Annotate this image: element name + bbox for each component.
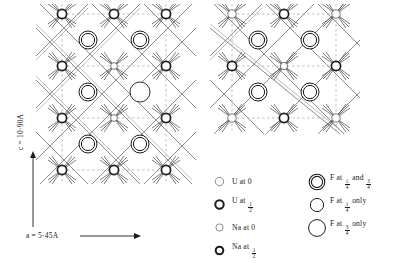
legend-label-f-both-prefix: F at [330,173,342,182]
legend-fraction-one-quarter: 1 4 [345,179,350,191]
legend-label-f-both-conjunction: and [352,173,364,182]
c-axis-label: c = 10·90A [16,114,25,150]
large-circle-icon [304,217,330,239]
medium-circle-icon [304,194,330,216]
legend-item-na-at-half: Na at 1 2 [206,239,257,262]
legend-fraction-one-half: 1 2 [248,202,253,214]
legend-fraction-one-half-na: 1 2 [252,248,257,260]
legend-fraction-one-quarter-only: 1 4 [345,202,350,214]
legend-label-u-half-prefix: U at [232,196,246,205]
double-circle-icon [304,171,330,193]
legend-item-u-at-half: U at 1 2 [206,193,257,216]
legend-fraction-three-quarter-only: 3 4 [345,225,350,237]
legend-item-f-three-quarter-only: F at 3 4 only [304,216,371,239]
a-axis-arrow [80,231,142,241]
legend-item-f-quarter-and-three-quarter: F at 1 4 and 3 4 [304,170,371,193]
crystal-svg-right [210,4,360,134]
legend-item-f-quarter-only: F at 1 4 only [304,193,371,216]
legend-fraction-three-quarter: 3 4 [366,179,371,191]
crystal-panel-right [210,4,360,134]
legend: U at 0 U at 1 2 [206,170,404,262]
thick-circle-tiny-icon [206,240,232,262]
a-axis-label: a = 5·45A [26,231,58,240]
thin-circle-small-icon [206,171,232,193]
legend-label-u-0-prefix: U at [232,177,246,186]
legend-item-na-at-0: Na at 0 [206,216,257,239]
crystal-svg-left [36,4,196,184]
crystal-panel-left [36,4,196,184]
legend-column-metals: U at 0 U at 1 2 [206,170,257,262]
legend-label-f-quarter-suffix: only [352,196,366,205]
figure-root: c = 10·90A a = 5·45A U at 0 [0,0,404,263]
unit-cell-guides-left [62,4,166,184]
thick-circle-small-icon [206,194,232,216]
thin-circle-tiny-icon [206,217,232,239]
legend-label-f-three-quarter-prefix: F at [330,219,342,228]
burst-atoms-left [48,4,180,184]
legend-column-fluorine: F at 1 4 and 3 4 [304,170,371,239]
bond-network-left [36,4,196,184]
legend-label-na-0-prefix: Na at [232,223,249,232]
legend-label-u-0-height: 0 [248,177,252,186]
legend-label-na-half-prefix: Na at [232,242,249,251]
legend-label-f-three-quarter-suffix: only [352,219,366,228]
legend-label-f-quarter-prefix: F at [330,196,342,205]
legend-item-u-at-0: U at 0 [206,170,257,193]
legend-label-na-0-height: 0 [251,223,255,232]
c-axis-arrow [28,151,38,229]
